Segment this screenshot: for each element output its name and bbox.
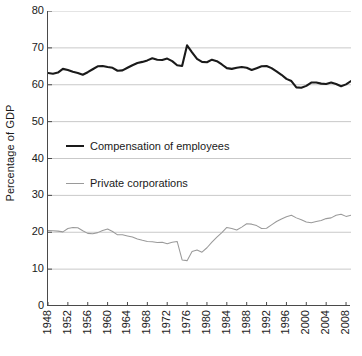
x-axis-tick-label: 2008 bbox=[340, 310, 351, 354]
x-axis-tick-label: 1960 bbox=[101, 310, 112, 354]
x-axis-tick-label: 1972 bbox=[161, 310, 172, 354]
data-lines bbox=[48, 11, 351, 306]
x-axis-tick-label: 1964 bbox=[121, 310, 132, 354]
y-axis-tick-label: 10 bbox=[14, 263, 44, 274]
x-axis-tick-label: 1952 bbox=[61, 310, 72, 354]
plot-area bbox=[47, 11, 350, 306]
legend-line-sample-icon bbox=[66, 145, 84, 147]
legend-item-compensation-of-employees: Compensation of employees bbox=[66, 140, 229, 152]
x-axis-tick-label: 1988 bbox=[240, 310, 251, 354]
y-axis-tick-label: 0 bbox=[14, 300, 44, 311]
y-axis-tick-label: 70 bbox=[14, 42, 44, 53]
x-axis-tick-label: 1976 bbox=[181, 310, 192, 354]
x-axis-tick-label: 1968 bbox=[141, 310, 152, 354]
legend-label: Private corporations bbox=[90, 177, 188, 189]
x-axis-tick-label: 2000 bbox=[300, 310, 311, 354]
x-axis-tick-label: 1948 bbox=[42, 310, 53, 354]
y-axis-tick-label: 20 bbox=[14, 226, 44, 237]
x-axis-tick-label: 1996 bbox=[280, 310, 291, 354]
x-axis-tick-label: 1992 bbox=[260, 310, 271, 354]
x-axis-tick-label: 2004 bbox=[320, 310, 331, 354]
legend-item-private-corporations: Private corporations bbox=[66, 177, 188, 189]
y-axis-tick-label: 30 bbox=[14, 189, 44, 200]
y-axis-tick-label: 40 bbox=[14, 153, 44, 164]
x-axis-tick-label: 1956 bbox=[81, 310, 92, 354]
series-line-1 bbox=[48, 214, 351, 260]
y-axis-tick-label: 80 bbox=[14, 5, 44, 16]
x-axis-tick-label: 1980 bbox=[200, 310, 211, 354]
legend-label: Compensation of employees bbox=[90, 140, 229, 152]
series-line-0 bbox=[48, 45, 351, 87]
legend-line-sample-icon bbox=[66, 183, 84, 184]
x-axis-tick-label: 1984 bbox=[220, 310, 231, 354]
y-axis-tick-label: 60 bbox=[14, 79, 44, 90]
y-axis-tick-label: 50 bbox=[14, 116, 44, 127]
